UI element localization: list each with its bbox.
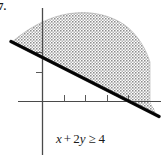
inequality-figure: 7. x+2y≥4 <box>0 0 161 155</box>
inequality-term-y: y <box>80 131 86 146</box>
inequality-relation: ≥ <box>88 131 95 146</box>
inequality-rhs: 4 <box>99 131 106 146</box>
problem-number: 7. <box>0 0 6 13</box>
inequality-coefficient: 2 <box>73 131 80 146</box>
inequality-label: x+2y≥4 <box>56 131 105 147</box>
inequality-plus: + <box>64 131 71 146</box>
inequality-term-x: x <box>56 131 62 146</box>
